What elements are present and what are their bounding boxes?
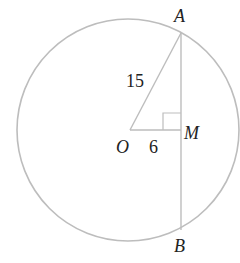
label-oa-length: 15 [126,71,144,91]
circle [17,19,239,241]
label-a: A [173,6,186,26]
geometry-diagram: A B O M 15 6 [0,0,240,263]
label-o: O [116,137,129,157]
label-om-length: 6 [149,137,158,157]
right-angle-marker [163,113,181,130]
label-b: B [174,236,185,256]
label-m: M [183,123,200,143]
